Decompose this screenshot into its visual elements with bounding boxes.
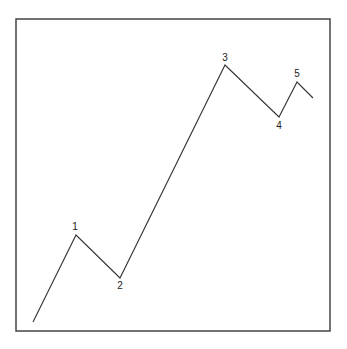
diagram-border [16, 19, 330, 331]
wave-label-2: 2 [117, 280, 123, 291]
wave-labels: 1 2 3 4 5 [72, 52, 300, 291]
wave-label-1: 1 [72, 221, 78, 232]
wave-label-5: 5 [294, 68, 300, 79]
wave-chart-canvas: 1 2 3 4 5 [0, 0, 347, 349]
wave-label-4: 4 [276, 120, 282, 131]
wave-price-line [33, 65, 313, 322]
elliott-wave-diagram: 1 2 3 4 5 [0, 0, 347, 349]
wave-label-3: 3 [222, 52, 228, 63]
